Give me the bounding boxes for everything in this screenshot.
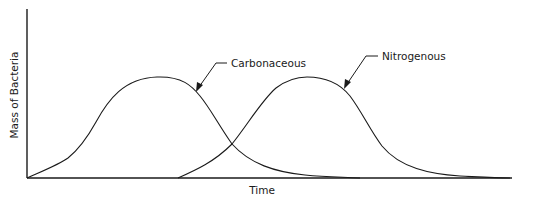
bacteria-growth-diagram: Carbonaceous Nitrogenous Time Mass of Ba… [0, 0, 534, 202]
y-axis-label: Mass of Bacteria [8, 52, 20, 139]
carbonaceous-curve [27, 77, 360, 178]
carbonaceous-label: Carbonaceous [231, 57, 306, 69]
carbonaceous-leader-line [199, 63, 227, 87]
nitrogenous-label: Nitrogenous [382, 50, 446, 62]
nitrogenous-curve [178, 77, 510, 178]
x-axis-label: Time [248, 184, 275, 196]
nitrogenous-leader-line [347, 56, 378, 84]
